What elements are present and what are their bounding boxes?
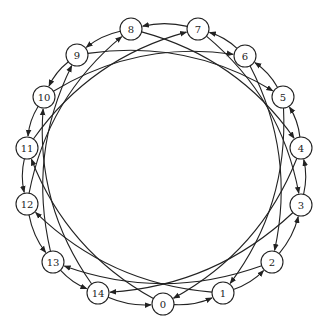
- edge-3-to-4: [304, 160, 306, 195]
- node-label: 3: [298, 200, 304, 211]
- edge-0-to-1: [174, 298, 212, 305]
- node-6: 6: [234, 45, 256, 67]
- node-label: 13: [47, 257, 60, 268]
- directed-graph: 01234567891011121314: [0, 0, 326, 334]
- node-7: 7: [187, 18, 209, 40]
- node-label: 6: [242, 51, 248, 62]
- edge-11-to-12: [22, 159, 24, 193]
- node-label: 10: [38, 92, 51, 103]
- node-label: 14: [92, 288, 105, 299]
- edge-10-to-11: [28, 106, 38, 136]
- edge-13-to-14: [60, 270, 86, 289]
- edge-4-to-5: [290, 107, 300, 137]
- edge-6-to-7: [210, 32, 238, 48]
- node-11: 11: [16, 137, 38, 159]
- node-label: 8: [128, 24, 134, 35]
- node-label: 7: [195, 24, 201, 35]
- edge-14-to-0: [108, 297, 151, 305]
- node-2: 2: [261, 251, 283, 273]
- node-label: 12: [21, 199, 34, 210]
- node-10: 10: [33, 86, 55, 108]
- node-label: 0: [160, 299, 166, 310]
- edge-8-to-9: [86, 31, 120, 47]
- node-1: 1: [212, 282, 234, 304]
- node-label: 11: [21, 143, 34, 154]
- edge-12-to-13: [29, 215, 46, 253]
- edge-11-to-7: [33, 32, 186, 139]
- node-label: 4: [298, 143, 304, 154]
- edge-0-to-11: [31, 159, 153, 298]
- node-13: 13: [42, 251, 64, 273]
- node-label: 5: [280, 92, 286, 103]
- edge-7-to-8: [143, 24, 188, 27]
- node-14: 14: [87, 282, 109, 304]
- node-label: 2: [269, 257, 275, 268]
- node-4: 4: [290, 137, 312, 159]
- edge-8-to-4: [142, 32, 295, 138]
- node-8: 8: [120, 18, 142, 40]
- node-label: 9: [74, 50, 80, 61]
- node-9: 9: [66, 44, 88, 66]
- node-3: 3: [290, 194, 312, 216]
- node-0: 0: [152, 293, 174, 315]
- node-12: 12: [16, 193, 38, 215]
- node-layer: 01234567891011121314: [16, 18, 312, 315]
- edge-9-to-10: [49, 62, 68, 86]
- node-5: 5: [272, 86, 294, 108]
- node-label: 1: [220, 288, 226, 299]
